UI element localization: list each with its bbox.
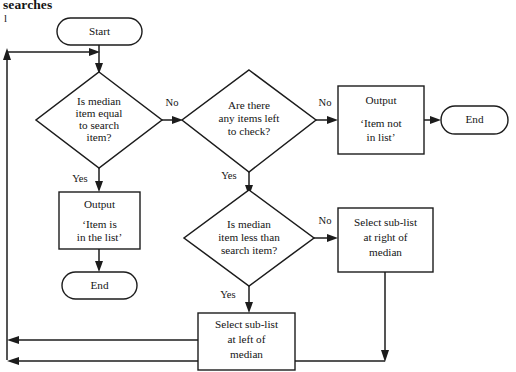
node-select-right: Select sub-list at right of median	[338, 208, 433, 272]
node-output-in-list: Output ‘Item is in the list’	[59, 192, 140, 249]
node-select-left-line-1: Select sub-list	[215, 318, 279, 330]
node-decision-less-than: Is median item less than search item?	[184, 190, 314, 286]
node-output-not-in-list-line-3: in list’	[367, 131, 396, 143]
node-decision-items-left-line-2: any items left	[219, 112, 281, 124]
node-end-right: End	[441, 106, 508, 134]
node-decision-less-than-line-1: Is median	[227, 218, 271, 230]
edge-less-than-yes: Yes	[220, 286, 253, 313]
node-decision-median-equal-line-4: item?	[87, 131, 112, 143]
node-decision-items-left-line-3: to check?	[228, 125, 271, 137]
node-start: Start	[57, 18, 142, 45]
edge-label-less-than-yes: Yes	[220, 289, 235, 300]
edge-label-items-left-no: No	[319, 97, 332, 108]
edge-output-in-list-to-end	[95, 249, 103, 272]
edge-output-not-in-list-to-end	[424, 116, 441, 124]
edge-equal-no: No	[162, 97, 183, 124]
node-decision-less-than-line-3: search item?	[221, 244, 277, 256]
edge-items-left-no: No	[316, 97, 338, 124]
node-select-right-line-3: median	[369, 246, 402, 258]
node-end-right-label: End	[465, 113, 483, 125]
flowchart-diagram: decision_items_left --> No output_in_lis…	[0, 0, 516, 372]
edge-equal-yes: Yes	[72, 168, 103, 192]
node-decision-median-equal-line-3: to search	[79, 119, 119, 131]
node-decision-median-equal-line-2: item equal	[76, 107, 123, 119]
edge-label-less-than-no: No	[319, 215, 332, 226]
node-end-left: End	[62, 272, 137, 299]
node-decision-less-than-line-2: item less than	[218, 231, 280, 243]
node-decision-median-equal-line-1: Is median	[77, 95, 121, 107]
node-select-left-line-2: at left of	[228, 333, 266, 345]
edge-label-items-left-yes: Yes	[221, 170, 236, 181]
node-select-left-line-3: median	[230, 348, 263, 360]
edge-label-equal-yes: Yes	[72, 173, 87, 184]
node-decision-items-left-line-1: Are there	[228, 99, 270, 111]
node-decision-items-left: Are there any items left to check?	[182, 70, 316, 172]
edge-less-than-no: No	[314, 215, 338, 242]
edge-select-left-loopback	[7, 336, 198, 344]
node-output-in-list-line-2: ‘Item is	[82, 218, 117, 230]
edge-label-equal-no: No	[166, 97, 179, 108]
edge-start-to-decision-equal	[95, 45, 103, 74]
node-decision-median-equal: Is median item equal to search item?	[36, 72, 162, 168]
node-output-not-in-list-line-2: ‘Item not	[360, 117, 402, 129]
node-start-label: Start	[89, 25, 111, 37]
node-output-not-in-list: Output ‘Item not in list’	[338, 86, 424, 154]
node-output-in-list-line-1: Output	[84, 198, 116, 210]
node-select-left: Select sub-list at left of median	[198, 313, 295, 370]
node-select-right-line-1: Select sub-list	[354, 216, 418, 228]
node-select-right-line-2: at right of	[363, 231, 407, 243]
node-output-in-list-line-3: in the list’	[77, 231, 122, 243]
node-end-left-label: End	[90, 279, 108, 291]
node-output-not-in-list-line-1: Output	[365, 94, 397, 106]
